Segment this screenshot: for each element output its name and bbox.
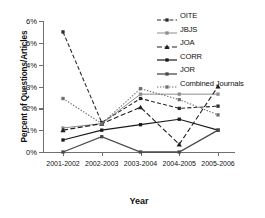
legend-item-joa[interactable]: JOA [157,36,244,50]
legend-swatch-icon [157,38,177,48]
data-point [139,97,142,100]
y-tick-label: 1% [26,126,37,135]
series-jor [61,129,219,154]
data-point [165,72,168,75]
legend-swatch-icon [157,78,177,88]
data-point [61,30,64,33]
data-point [165,59,168,62]
data-point [139,87,142,90]
data-point [178,107,181,110]
legend-item-corr[interactable]: CORR [157,50,244,64]
data-point [178,118,181,121]
legend-label: OITE [180,11,197,20]
legend-item-oite[interactable]: OITE [157,9,244,23]
legend-label: Combined Journals [180,79,244,88]
data-point [178,98,181,101]
x-tick-label: 2005-2006 [201,160,234,167]
data-point [100,135,103,138]
series-line [63,130,218,152]
legend-label: JBJS [180,25,197,34]
data-point [165,32,168,35]
data-point [139,150,142,153]
data-point [61,150,64,153]
data-point [178,150,181,153]
data-point [216,92,219,95]
y-tick-label: 2% [26,104,37,113]
y-tick-label: 5% [26,38,37,47]
legend-swatch-icon [157,11,177,21]
data-point [165,18,168,21]
legend-item-jbjs[interactable]: JBJS [157,23,244,37]
chart-legend: OITEJBJSJOACORRJORCombined Journals [157,9,244,90]
data-point [216,129,219,132]
x-tick-label: 2002-2003 [85,160,118,167]
data-point [139,123,142,126]
legend-swatch-icon [157,65,177,75]
data-point [139,92,142,95]
data-point [100,129,103,132]
x-tick-label: 2001-2002 [46,160,79,167]
data-point [61,138,64,141]
legend-item-jor[interactable]: JOR [157,63,244,77]
series-corr [61,118,219,142]
x-tick-label: 2004-2005 [163,160,196,167]
figure-caption [4,211,262,218]
legend-item-combined-journals[interactable]: Combined Journals [157,77,244,91]
data-point [216,113,219,116]
data-point [165,86,168,89]
chart-figure: Percent of Questions/Articles 0%1%2%3%4%… [0,0,265,218]
y-tick-label: 3% [26,82,37,91]
data-point [178,92,181,95]
legend-label: JOR [180,65,195,74]
y-tick-label: 4% [26,60,37,69]
x-axis-title: Year [43,196,235,206]
data-point [138,105,143,110]
data-point [216,105,219,108]
data-point [61,97,64,100]
series-line [63,119,218,140]
legend-label: JOA [180,38,194,47]
legend-label: CORR [180,52,202,61]
data-point [100,122,103,125]
y-tick-label: 0% [26,148,37,157]
legend-swatch-icon [157,51,177,61]
legend-swatch-icon [157,24,177,34]
y-tick-label: 6% [26,17,37,26]
x-tick-label: 2003-2004 [124,160,157,167]
